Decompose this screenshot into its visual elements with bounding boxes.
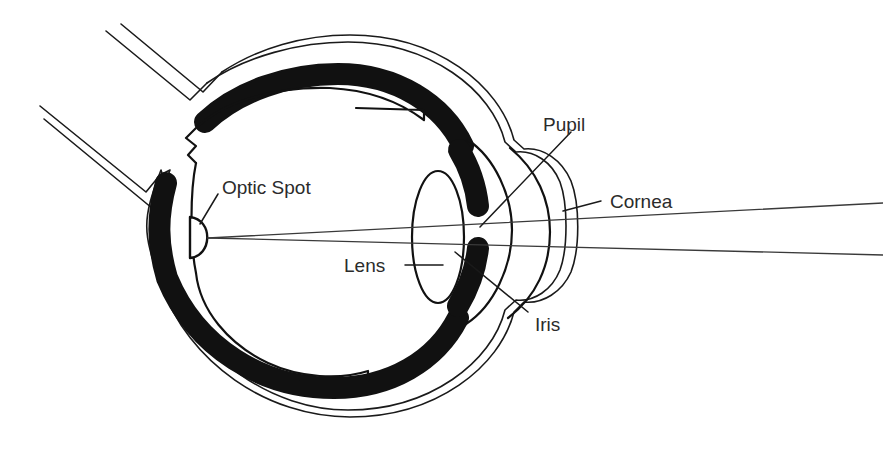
lens-shape	[412, 171, 464, 303]
optic-stalk-lower	[40, 106, 170, 213]
eye-anatomy-diagram: Optic Spot Pupil Cornea Lens Iris	[0, 0, 883, 452]
leader-cornea	[563, 201, 601, 211]
optic-stalk-upper	[106, 24, 222, 100]
label-lens: Lens	[344, 255, 385, 276]
label-optic-spot: Optic Spot	[222, 177, 311, 198]
eye-diagram-canvas: Optic Spot Pupil Cornea Lens Iris	[0, 0, 883, 452]
label-cornea: Cornea	[610, 191, 673, 212]
optic-spot-shape	[190, 217, 207, 258]
light-rays	[208, 203, 883, 255]
leader-optic-spot	[200, 194, 218, 224]
light-ray-upper	[208, 203, 883, 238]
leader-pupil	[480, 132, 571, 227]
label-pupil: Pupil	[543, 114, 585, 135]
label-iris: Iris	[535, 314, 560, 335]
light-ray-lower	[208, 238, 883, 255]
iris-band	[458, 150, 478, 306]
